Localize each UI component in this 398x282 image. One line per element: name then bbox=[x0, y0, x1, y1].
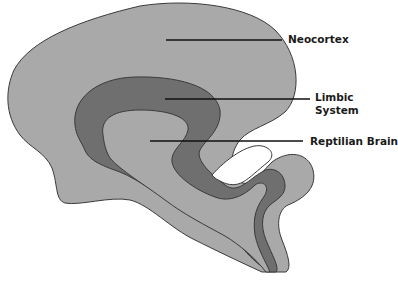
reptilian-brain-label: Reptilian Brain bbox=[310, 135, 398, 148]
limbic-system-label: Limbic System bbox=[315, 91, 359, 117]
limbic-label-line2: System bbox=[315, 104, 359, 117]
limbic-label-line1: Limbic bbox=[315, 91, 359, 104]
neocortex-label: Neocortex bbox=[288, 33, 349, 46]
